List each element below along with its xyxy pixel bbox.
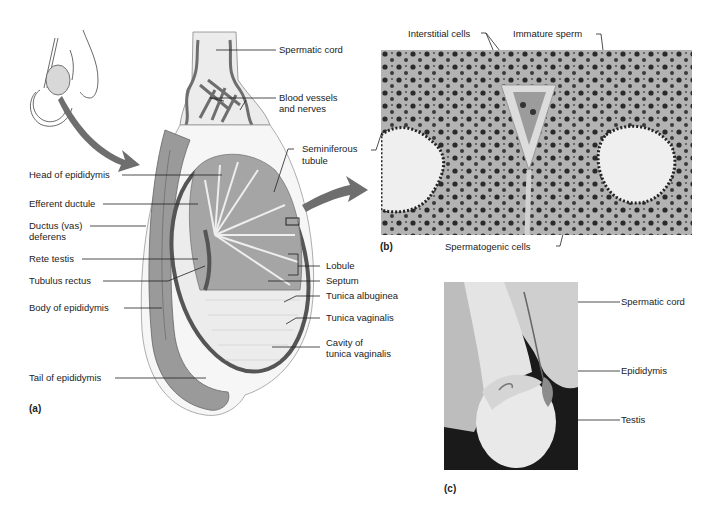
- panel-label-c: (c): [444, 483, 456, 494]
- label-immature-sperm: Immature sperm: [513, 28, 582, 39]
- label-ductus-deferens-line2: deferens: [29, 231, 66, 242]
- label-lobule: Lobule: [326, 260, 355, 271]
- label-tubulus-rectus: Tubulus rectus: [29, 275, 91, 286]
- label-seminiferous-tubule-line2: tubule: [302, 155, 328, 166]
- label-blood-vessels-line2: and nerves: [279, 103, 326, 114]
- label-body-of-epididymis: Body of epididymis: [29, 302, 109, 313]
- label-spermatic-cord-photo: Spermatic cord: [621, 296, 685, 307]
- label-efferent-ductule: Efferent ductule: [29, 198, 95, 209]
- label-head-of-epididymis: Head of epididymis: [29, 169, 110, 180]
- panel-label-a: (a): [29, 403, 41, 414]
- label-spermatic-cord: Spermatic cord: [279, 44, 343, 55]
- label-interstitial-cells: Interstitial cells: [408, 28, 470, 39]
- seminiferous-tubule-micrograph: [381, 50, 692, 235]
- label-seminiferous-tubule-line1: Seminiferous: [302, 143, 357, 154]
- dissection-photo: [444, 282, 578, 470]
- label-testis-photo: Testis: [621, 414, 645, 425]
- magnify-arrow-icon: [302, 176, 368, 212]
- label-cavity-line2: tunica vaginalis: [326, 348, 391, 359]
- label-septum: Septum: [326, 275, 359, 286]
- locator-arrow-icon: [58, 96, 140, 172]
- label-spermatogenic-cells: Spermatogenic cells: [445, 241, 531, 252]
- label-cavity-line1: Cavity of: [326, 337, 363, 348]
- label-blood-vessels-line1: Blood vessels: [279, 92, 338, 103]
- label-tail-of-epididymis: Tail of epididymis: [29, 372, 101, 383]
- label-ductus-deferens-line1: Ductus (vas): [29, 220, 82, 231]
- label-tunica-albuginea: Tunica albuginea: [326, 290, 398, 301]
- label-rete-testis: Rete testis: [29, 253, 74, 264]
- panel-label-b: (b): [380, 241, 393, 252]
- label-tunica-vaginalis: Tunica vaginalis: [326, 312, 394, 323]
- label-epididymis-photo: Epididymis: [621, 365, 667, 376]
